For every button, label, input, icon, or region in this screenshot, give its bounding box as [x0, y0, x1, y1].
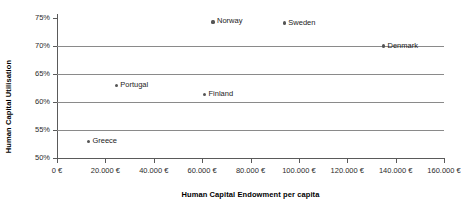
x-tick-mark-40000 — [154, 159, 155, 163]
y-tick-label-55: 55% — [18, 125, 50, 134]
data-label-sweden: Sweden — [288, 18, 315, 27]
x-axis-title: Human Capital Endowment per capita — [57, 190, 444, 199]
data-point-sweden[interactable] — [283, 21, 286, 24]
x-tick-mark-120000 — [347, 159, 348, 163]
y-tick-label-75: 75% — [18, 13, 50, 22]
y-tick-mark-55 — [53, 130, 57, 131]
y-tick-label-70: 70% — [18, 41, 50, 50]
data-point-portugal[interactable] — [115, 84, 118, 87]
data-label-denmark: Denmark — [388, 41, 418, 50]
y-tick-label-60: 60% — [18, 97, 50, 106]
y-tick-label-50: 50% — [18, 153, 50, 162]
x-tick-mark-80000 — [251, 159, 252, 163]
gridline-70 — [57, 46, 444, 47]
x-tick-mark-20000 — [105, 159, 106, 163]
x-tick-label-160000: 160.000 € — [414, 166, 470, 175]
gridline-60 — [57, 102, 444, 103]
x-tick-mark-60000 — [202, 159, 203, 163]
gridline-65 — [57, 74, 444, 75]
data-point-denmark[interactable] — [382, 44, 385, 47]
y-axis-title: Human Capital Utilisation — [0, 0, 16, 213]
data-label-finland: Finland — [209, 89, 234, 98]
plot-area: NorwaySwedenDenmarkPortugalFinlandGreece — [57, 18, 444, 158]
y-tick-mark-60 — [53, 102, 57, 103]
data-point-finland[interactable] — [203, 93, 206, 96]
y-tick-mark-70 — [53, 46, 57, 47]
x-tick-mark-0 — [57, 159, 58, 163]
y-tick-mark-75 — [53, 18, 57, 19]
scatter-chart: Human Capital Utilisation NorwaySwedenDe… — [0, 0, 470, 213]
y-tick-label-65: 65% — [18, 69, 50, 78]
x-axis-line — [54, 158, 445, 159]
data-point-greece[interactable] — [87, 140, 90, 143]
x-tick-mark-100000 — [299, 159, 300, 163]
data-label-portugal: Portugal — [120, 80, 148, 89]
x-tick-mark-140000 — [396, 159, 397, 163]
data-label-greece: Greece — [92, 136, 117, 145]
gridline-55 — [57, 130, 444, 131]
data-point-norway[interactable] — [211, 20, 214, 23]
y-tick-mark-65 — [53, 74, 57, 75]
x-tick-mark-160000 — [444, 159, 445, 163]
data-label-norway: Norway — [217, 16, 242, 25]
